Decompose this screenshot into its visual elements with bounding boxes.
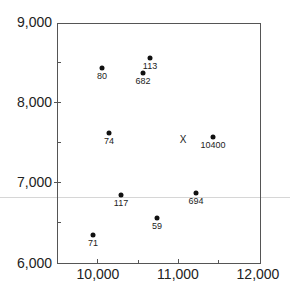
y-tick-label-7000: 7,000: [0, 175, 52, 189]
point-label-113: 113: [143, 62, 157, 71]
y-tick-label-6000: 6,000: [0, 256, 52, 270]
y-tick: [54, 102, 61, 103]
x-tick: [178, 259, 179, 264]
data-point-74: [107, 131, 112, 136]
x-tick: [218, 260, 219, 264]
point-label-682: 682: [135, 77, 150, 86]
x-tick-label-11000: 11,000: [148, 267, 208, 281]
y-tick: [57, 62, 61, 63]
data-point-113: [148, 56, 153, 61]
point-label-80: 80: [97, 72, 107, 81]
data-point-694: [194, 191, 199, 196]
point-label-59: 59: [152, 222, 162, 231]
y-tick: [54, 182, 61, 183]
x-tick: [97, 259, 98, 264]
point-label-74: 74: [104, 137, 114, 146]
y-tick-label-9000: 9,000: [0, 15, 52, 29]
data-point-10400: [211, 135, 216, 140]
point-label-117: 117: [114, 199, 128, 208]
data-point-71: [91, 233, 96, 238]
point-label-10400: 10400: [200, 141, 225, 150]
scatter-chart: 9,000 8,000 7,000 6,000 10,000 11,000 12…: [0, 0, 290, 293]
y-tick: [57, 222, 61, 223]
x-marker-annotation: X: [180, 135, 187, 145]
y-tick: [57, 142, 61, 143]
point-label-694: 694: [188, 197, 203, 206]
point-label-71: 71: [88, 239, 98, 248]
data-point-117: [119, 193, 124, 198]
data-point-80: [100, 66, 105, 71]
x-tick-label-12000: 12,000: [228, 267, 288, 281]
data-point-59: [155, 216, 160, 221]
x-tick: [138, 260, 139, 264]
y-tick-label-8000: 8,000: [0, 95, 52, 109]
x-tick-label-10000: 10,000: [68, 267, 128, 281]
data-point-682: [141, 71, 146, 76]
